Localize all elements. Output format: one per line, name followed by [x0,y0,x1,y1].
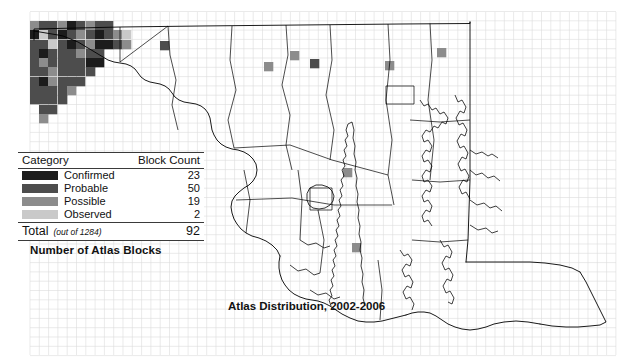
legend-label: Observed [64,208,194,221]
map-title: Atlas Distribution, 2002-2006 [228,300,385,312]
legend-total-note: (out of 1284) [53,227,186,237]
legend-rows: Confirmed23Probable50Possible19Observed2 [18,169,204,221]
atlas-block-possible [290,51,299,60]
atlas-block-probable [39,95,48,104]
atlas-block-observed [48,40,57,49]
atlas-block-probable [48,86,57,95]
atlas-block-probable [48,95,57,104]
atlas-block-probable [310,59,319,68]
atlas-block-probable [39,40,48,49]
legend-row-observed: Observed2 [18,208,204,221]
atlas-block-possible [343,168,352,177]
legend-total-count: 92 [186,224,200,238]
atlas-block-probable [76,77,85,86]
atlas-block-probable [58,95,67,104]
atlas-block-possible [122,40,131,49]
atlas-block-possible [58,21,67,30]
atlas-block-probable [86,49,95,58]
legend-category-header: Category [22,154,69,166]
atlas-block-probable [76,67,85,76]
atlas-block-probable [95,21,104,30]
atlas-block-probable [39,67,48,76]
atlas-block-confirmed [104,40,113,49]
atlas-block-probable [58,77,67,86]
atlas-block-probable [30,40,39,49]
legend-count: 2 [194,208,200,221]
atlas-block-probable [39,86,48,95]
atlas-block-possible [48,77,57,86]
atlas-block-probable [104,30,113,39]
atlas-block-possible [39,58,48,67]
legend-row-confirmed: Confirmed23 [18,169,204,182]
atlas-block-confirmed [67,40,76,49]
legend-label: Possible [64,195,188,208]
atlas-block-probable [76,58,85,67]
legend-swatch-probable [22,184,58,193]
atlas-block-possible [48,67,57,76]
legend-count-header: Block Count [138,154,200,166]
atlas-block-confirmed [95,58,104,67]
atlas-block-confirmed [95,30,104,39]
legend-row-possible: Possible19 [18,195,204,208]
legend-count: 19 [188,195,200,208]
legend-header: Category Block Count [18,153,204,169]
atlas-block-probable [104,21,113,30]
atlas-block-probable [67,67,76,76]
legend-row-probable: Probable50 [18,182,204,195]
legend-swatch-confirmed [22,171,58,180]
atlas-block-probable [67,58,76,67]
map-legend: Category Block Count Confirmed23Probable… [18,152,204,241]
atlas-block-probable [48,105,57,114]
legend-swatch-observed [22,210,58,219]
atlas-block-probable [58,58,67,67]
atlas-block-probable [58,40,67,49]
atlas-block-possible [39,114,48,123]
atlas-block-probable [58,67,67,76]
atlas-block-possible [76,30,85,39]
atlas-block-possible [113,30,122,39]
atlas-block-probable [86,30,95,39]
atlas-distribution-map: Category Block Count Confirmed23Probable… [0,0,630,363]
legend-swatch-possible [22,197,58,206]
legend-count: 23 [188,169,200,182]
atlas-block-probable [67,77,76,86]
legend-label: Probable [64,182,188,195]
atlas-block-probable [30,95,39,104]
atlas-block-confirmed [67,21,76,30]
atlas-block-probable [48,49,57,58]
atlas-block-possible [76,49,85,58]
legend-total-row: Total (out of 1284) 92 [18,222,204,240]
legend-count: 50 [188,182,200,195]
atlas-block-probable [58,49,67,58]
atlas-block-confirmed [39,77,48,86]
atlas-block-probable [86,67,95,76]
atlas-block-observed [39,30,48,39]
atlas-block-probable [30,67,39,76]
atlas-block-confirmed [58,30,67,39]
atlas-block-possible [86,21,95,30]
atlas-block-confirmed [95,40,104,49]
legend-total-label: Total [22,224,48,238]
atlas-block-probable [30,77,39,86]
atlas-block-confirmed [39,49,48,58]
atlas-block-probable [48,58,57,67]
atlas-block-possible [264,62,273,71]
atlas-block-probable [30,86,39,95]
legend-caption: Number of Atlas Blocks [30,244,162,256]
atlas-block-confirmed [86,58,95,67]
atlas-block-probable [30,58,39,67]
atlas-block-observed [122,30,131,39]
atlas-block-probable [160,41,169,50]
atlas-block-probable [39,105,48,114]
atlas-block-probable [113,40,122,49]
atlas-block-probable [76,21,85,30]
atlas-block-probable [67,49,76,58]
legend-label: Confirmed [64,169,188,182]
atlas-block-probable [30,49,39,58]
atlas-block-possible [437,48,446,57]
atlas-block-probable [58,86,67,95]
atlas-block-possible [67,86,76,95]
